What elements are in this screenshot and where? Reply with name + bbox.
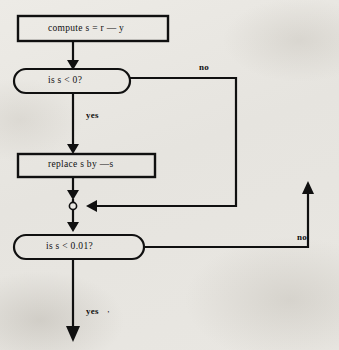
arrowhead-decision1-no [86,200,97,212]
node-junction-circle [69,202,76,209]
arrowhead-decision2-no [302,181,314,194]
figure-page: compute s = r — y is s < 0? replace s by… [0,0,339,350]
edge-label-no-second: no [297,232,307,242]
node-decision-tolerance-label: is s < 0.01? [46,241,93,251]
flowchart-diagram [0,0,339,350]
node-decision-negative-label: is s < 0? [48,75,82,85]
arrowhead-replace-to-junction [67,190,79,200]
edge-label-no-first: no [199,62,209,72]
edge-label-yes-first: yes [86,110,99,120]
edge-label-yes-second: yes [86,306,99,316]
edge-decision2-no [144,192,308,247]
arrowhead-decision2-yes [66,326,80,342]
node-compute-label: compute s = r — y [48,23,124,33]
edge-decision1-no [95,78,236,206]
arrowhead-junction-to-decision2 [67,222,79,232]
node-replace-label: replace s by —s [48,159,113,169]
stray-tick-mark: ’ [107,310,110,319]
arrowhead-decision1-yes [67,144,79,154]
